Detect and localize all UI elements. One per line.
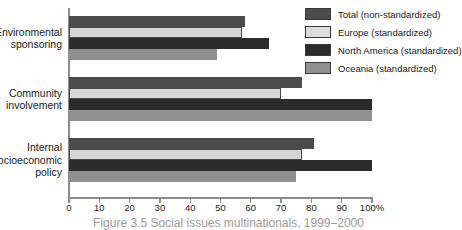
x-axis-tick-label: 30 [155,203,166,213]
legend-swatch-icon [305,8,331,20]
x-axis-tick-label: 0 [66,203,71,213]
legend-item: North America (standardized) [305,42,457,58]
legend-label: Total (non-standardized) [338,9,440,20]
x-axis-tick-label: 20 [124,203,135,213]
x-axis-tick-label: 80 [306,203,317,213]
legend-swatch-icon [305,62,331,74]
bar [69,149,302,160]
x-axis-tick-label: 70 [276,203,287,213]
bar [69,171,296,182]
legend-swatch-icon [305,26,331,38]
legend: Total (non-standardized)Europe (standard… [305,6,457,78]
x-axis-tick-label: 90 [336,203,347,213]
bar [69,160,372,171]
legend-item: Oceania (standardized) [305,60,457,76]
x-axis-tick-label: 10 [94,203,105,213]
legend-swatch-icon [305,44,331,56]
legend-label: Oceania (standardized) [338,63,437,74]
legend-label: Europe (standardized) [338,27,432,38]
x-axis-tick-label: 50 [215,203,226,213]
bar [69,99,372,110]
x-axis-tick-label: 60 [246,203,257,213]
bar [69,138,314,149]
legend-label: North America (standardized) [338,45,462,56]
category-label: Community involvement [0,87,62,112]
legend-item: Total (non-standardized) [305,6,457,22]
bar [69,77,302,88]
x-axis-tick-label: 40 [185,203,196,213]
bar [69,49,217,60]
x-axis-tick-label: 100% [360,203,384,213]
bar [69,27,242,38]
legend-item: Europe (standardized) [305,24,457,40]
figure-caption: Figure 3.5 Social issues multinationals,… [0,216,457,230]
bar [69,110,372,121]
bar [69,88,281,99]
bar [69,16,245,27]
bar [69,38,269,49]
category-label: Internal socioeconomic policy [0,141,62,179]
category-label: Environmental sponsoring [0,26,62,51]
